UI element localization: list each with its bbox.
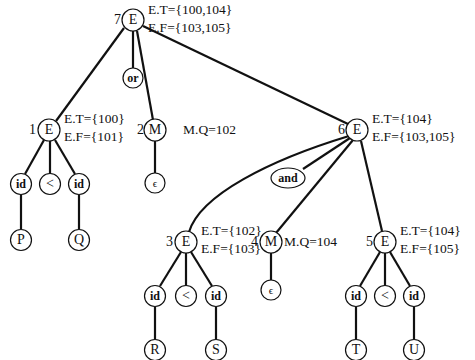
node-id: id bbox=[409, 290, 419, 302]
node-e6-truelist: E.T={104} bbox=[372, 112, 433, 126]
node-less-than: < bbox=[46, 177, 54, 191]
node-e5-truelist: E.T={104} bbox=[400, 224, 461, 238]
node-and-symbol: and bbox=[278, 172, 297, 184]
node-e6-symbol: E bbox=[353, 123, 362, 137]
node-m2-quad: M.Q=102 bbox=[183, 123, 236, 137]
node-m4-symbol: M bbox=[265, 235, 277, 249]
leaf-r: R bbox=[150, 343, 159, 357]
node-index-6: 6 bbox=[338, 123, 345, 137]
node-e5-falselist: E.F={105} bbox=[400, 242, 460, 256]
node-index-1: 1 bbox=[29, 123, 36, 137]
parse-tree-diagram: 7 E E.T={100,104} E.F={103,105} or 1 E E… bbox=[0, 0, 475, 360]
node-index-7: 7 bbox=[114, 13, 121, 27]
node-index-4: 4 bbox=[251, 235, 258, 249]
leaf-t: T bbox=[352, 343, 361, 357]
node-e5-symbol: E bbox=[381, 235, 390, 249]
node-index-5: 5 bbox=[366, 235, 373, 249]
node-e7-truelist: E.T={100,104} bbox=[148, 3, 232, 17]
node-m2-symbol: M bbox=[149, 123, 161, 137]
node-e7-symbol: E bbox=[129, 13, 138, 27]
node-m4-quad: M.Q=104 bbox=[284, 235, 337, 249]
node-e1-falselist: E.F={101} bbox=[64, 130, 124, 144]
node-e1-truelist: E.T={100} bbox=[64, 112, 125, 126]
leaf-u: U bbox=[409, 343, 419, 357]
node-index-2: 2 bbox=[137, 123, 144, 137]
node-less-than: < bbox=[381, 289, 389, 303]
node-less-than: < bbox=[182, 289, 190, 303]
epsilon-leaf-2: ϵ bbox=[269, 285, 273, 296]
node-id: id bbox=[351, 290, 361, 302]
leaf-s: S bbox=[212, 343, 220, 357]
node-e1-symbol: E bbox=[45, 123, 54, 137]
node-index-3: 3 bbox=[166, 235, 173, 249]
node-id: id bbox=[150, 290, 160, 302]
tree-edges bbox=[0, 0, 475, 360]
node-e7-falselist: E.F={103,105} bbox=[148, 21, 232, 35]
leaf-q: Q bbox=[74, 233, 84, 247]
node-e3-symbol: E bbox=[182, 235, 191, 249]
node-or-symbol: or bbox=[127, 72, 138, 84]
leaf-p: P bbox=[17, 233, 25, 247]
epsilon-leaf-1: ϵ bbox=[153, 178, 157, 189]
node-id: id bbox=[16, 178, 26, 190]
node-id: id bbox=[74, 178, 84, 190]
node-e6-falselist: E.F={103,105} bbox=[372, 130, 456, 144]
node-id: id bbox=[211, 290, 221, 302]
